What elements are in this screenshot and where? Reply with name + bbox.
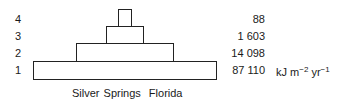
pyramid-level-4-box xyxy=(118,9,132,27)
level-3-value: 1 603 xyxy=(237,30,265,42)
level-1-value: 87 110 xyxy=(232,64,265,76)
level-2-value: 14 098 xyxy=(231,47,265,59)
level-label-4: 4 xyxy=(15,13,21,25)
level-label-1: 1 xyxy=(15,64,21,76)
location-caption: Silver SpringsFlorida xyxy=(72,87,182,99)
unit-base: kJ m xyxy=(276,66,299,78)
pyramid-level-3-box xyxy=(106,26,144,44)
pyramid-level-2-box xyxy=(76,43,174,62)
location-state: Florida xyxy=(149,87,183,99)
level-4-value: 88 xyxy=(253,13,265,25)
unit-exponent-1: −2 xyxy=(299,65,308,74)
unit-mid: yr xyxy=(308,66,320,78)
unit-exponent-2: −1 xyxy=(321,65,330,74)
level-label-2: 2 xyxy=(15,47,21,59)
unit-label: kJ m−2 yr−1 xyxy=(276,64,330,78)
location-name: Silver Springs xyxy=(72,87,141,99)
level-label-3: 3 xyxy=(15,30,21,42)
pyramid-level-1-box xyxy=(33,61,217,80)
